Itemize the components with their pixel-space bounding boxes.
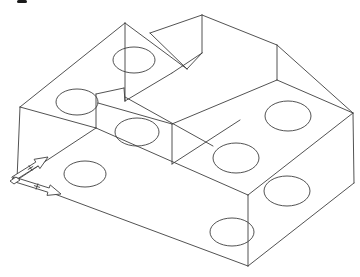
- edge-line: [172, 120, 240, 164]
- hole-ellipse: [56, 89, 98, 115]
- hole-ellipse: [64, 161, 106, 187]
- edge-line: [20, 107, 96, 128]
- edge-line: [150, 15, 202, 33]
- edge-line: [172, 53, 202, 73]
- hole-ellipse: [264, 176, 310, 206]
- edge-line: [125, 73, 172, 101]
- edge-line: [98, 103, 172, 124]
- edge-line: [248, 183, 354, 266]
- wireframe-drawing: [0, 0, 360, 277]
- hole-ellipse: [213, 143, 259, 173]
- edge-line: [353, 113, 354, 183]
- edge-line: [150, 33, 187, 69]
- edge-line: [277, 45, 353, 113]
- edge-line: [20, 23, 125, 107]
- hole-ellipse: [265, 101, 311, 131]
- hole-ellipse: [115, 118, 159, 146]
- edge-line: [248, 113, 353, 195]
- cad-drawing-viewport[interactable]: [0, 0, 360, 277]
- edge-line: [202, 15, 277, 45]
- hole-ellipse: [113, 47, 155, 73]
- edge-line: [277, 80, 353, 113]
- edge-line: [172, 80, 277, 124]
- edge-line: [125, 23, 187, 69]
- edge-line: [96, 88, 124, 94]
- screen-edge-artifact: [17, 0, 27, 3]
- edge-line: [125, 97, 213, 146]
- hole-ellipse: [210, 218, 254, 246]
- edge-line: [17, 107, 20, 180]
